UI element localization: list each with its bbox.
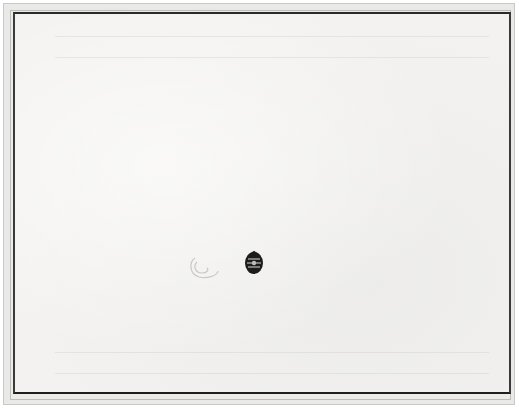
paper-texture (15, 14, 509, 392)
faint-top-band (55, 36, 489, 58)
faint-bottom-band (55, 352, 489, 374)
swirl-icon (187, 252, 221, 282)
emblem-icon (243, 250, 265, 276)
paper-sheet (13, 12, 511, 394)
